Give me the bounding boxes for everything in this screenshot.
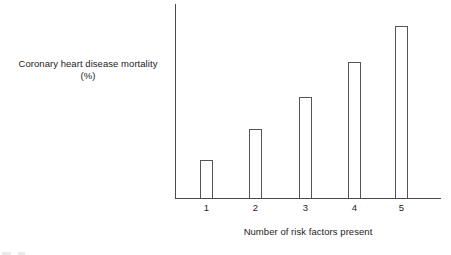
bar: [249, 129, 262, 198]
y-axis-label-line1: Coronary heart disease mortality: [19, 58, 158, 69]
x-tick-label-4: 4: [343, 201, 367, 214]
x-axis-tick-labels: 12345: [175, 201, 441, 215]
plot-area: [175, 4, 441, 199]
y-axis-label: Coronary heart disease mortality (%): [8, 58, 168, 82]
bar: [348, 62, 361, 198]
x-tick-label-2: 2: [244, 201, 268, 214]
x-tick-label-1: 1: [195, 201, 219, 214]
bar: [299, 97, 312, 198]
bar-series: [175, 4, 441, 198]
y-axis-label-unit: (%): [8, 70, 168, 82]
x-axis-line: [175, 198, 441, 199]
x-tick-label-3: 3: [294, 201, 318, 214]
x-tick-label-5: 5: [390, 201, 414, 214]
bar-chart-figure: Coronary heart disease mortality (%) 123…: [0, 0, 451, 255]
bar: [395, 26, 408, 198]
x-axis-title: Number of risk factors present: [175, 226, 441, 238]
bar: [200, 160, 213, 198]
